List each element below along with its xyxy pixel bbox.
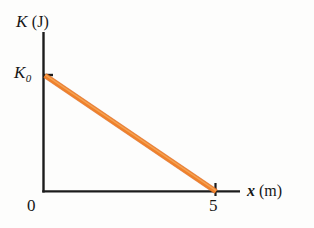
x-axis-symbol: x	[247, 182, 255, 199]
y-axis-unit: (J)	[32, 13, 49, 30]
x-axis-unit: (m)	[259, 182, 282, 199]
x-axis-title: x (m)	[247, 183, 282, 199]
x-axis-tick-label-5: 5	[209, 197, 218, 214]
y-tick-base-symbol: K	[14, 63, 25, 82]
x-axis-tick-label-origin: 0	[27, 197, 36, 214]
y-axis-title: K (J)	[16, 13, 49, 30]
y-axis-symbol: K	[16, 12, 28, 31]
y-tick-subscript: 0	[26, 72, 32, 84]
figure-container: K (J) x (m) K0 0 5	[0, 0, 314, 228]
y-axis-tick-label-k0: K0	[14, 64, 31, 84]
